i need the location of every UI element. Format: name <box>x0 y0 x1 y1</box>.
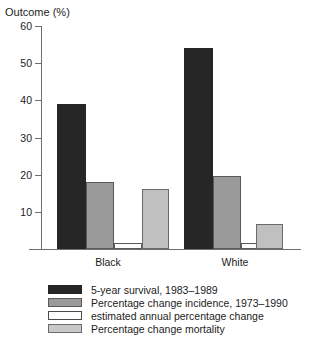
medium-gray-swatch-icon <box>48 298 82 307</box>
y-tick-30 <box>35 138 42 139</box>
y-tick-10 <box>35 212 42 213</box>
y-tick-50 <box>35 63 42 64</box>
legend-item-mortality: Percentage change mortality <box>48 322 298 335</box>
legend-label-eapc: estimated annual percentage change <box>91 310 264 322</box>
legend-label-incidence: Percentage change incidence, 1973–1990 <box>91 297 288 309</box>
group-label-black: Black <box>78 256 138 268</box>
chart-legend: 5-year survival, 1983–1989 Percentage ch… <box>48 283 298 335</box>
legend-label-survival: 5-year survival, 1983–1989 <box>91 284 218 296</box>
bar-black-survival <box>57 104 86 249</box>
x-axis-line <box>29 249 301 250</box>
y-tick-40 <box>35 100 42 101</box>
legend-label-mortality: Percentage change mortality <box>91 323 225 335</box>
y-tick-20 <box>35 175 42 176</box>
y-tick-label-40: 40 <box>8 95 32 106</box>
bar-black-incidence <box>86 182 114 249</box>
legend-item-eapc: estimated annual percentage change <box>48 309 298 322</box>
bar-white-mortality <box>256 224 283 249</box>
y-tick-60 <box>35 26 42 27</box>
bar-black-eapc <box>114 243 142 249</box>
bar-white-survival <box>184 48 213 249</box>
white-swatch-icon <box>48 311 82 320</box>
legend-item-incidence: Percentage change incidence, 1973–1990 <box>48 296 298 309</box>
dark-swatch-icon <box>48 285 82 294</box>
legend-item-survival: 5-year survival, 1983–1989 <box>48 283 298 296</box>
group-label-white: White <box>205 256 265 268</box>
bar-black-mortality <box>142 189 169 249</box>
bar-chart-figure: Outcome (%) 60 50 40 30 20 10 <box>0 0 312 340</box>
bar-white-incidence <box>213 176 241 249</box>
y-tick-label-10: 10 <box>8 207 32 218</box>
plot-area: 60 50 40 30 20 10 Black White <box>0 0 312 275</box>
y-tick-label-50: 50 <box>8 58 32 69</box>
y-tick-label-60: 60 <box>8 21 32 32</box>
light-gray-swatch-icon <box>48 324 82 333</box>
y-tick-label-30: 30 <box>8 133 32 144</box>
y-tick-label-20: 20 <box>8 170 32 181</box>
